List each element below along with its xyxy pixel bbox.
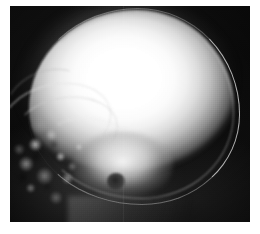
radiograph-figure xyxy=(0,0,260,234)
film-vignette xyxy=(10,6,250,222)
xray-film-plate xyxy=(10,6,250,222)
